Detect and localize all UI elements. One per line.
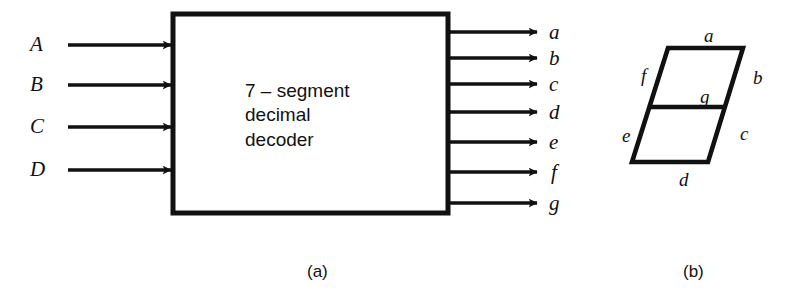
segment-label-a: a	[704, 26, 714, 45]
caption-panel-b: (b)	[683, 263, 704, 280]
output-label-b: b	[549, 48, 560, 69]
segment-label-f: f	[641, 66, 646, 85]
input-arrows	[68, 45, 171, 170]
decoder-block-label: 7 – segment decimal decoder	[245, 79, 350, 152]
output-label-c: c	[549, 74, 558, 95]
output-label-d: d	[549, 102, 560, 123]
output-label-f: f	[551, 162, 557, 183]
seven-segment-display	[632, 48, 743, 162]
segment-label-d: d	[679, 170, 689, 189]
output-label-a: a	[549, 22, 560, 43]
output-label-g: g	[549, 193, 560, 214]
input-label-D: D	[30, 159, 45, 180]
segment-label-b: b	[753, 68, 763, 87]
figure-diagram-svg	[0, 0, 797, 300]
decoder-block-label-line-1: 7 – segment	[245, 79, 350, 103]
decoder-block-label-line-3: decoder	[245, 128, 350, 152]
figure-root: A B C D 7 – segment decimal decoder a b …	[0, 0, 797, 300]
input-label-A: A	[30, 34, 43, 55]
segment-label-g: g	[700, 87, 710, 106]
caption-panel-a: (a)	[307, 263, 328, 280]
input-label-C: C	[30, 116, 44, 137]
segment-label-e: e	[622, 126, 630, 145]
output-arrows	[450, 32, 537, 203]
decoder-block-label-line-2: decimal	[245, 103, 350, 127]
output-label-e: e	[549, 132, 558, 153]
segment-label-c: c	[740, 124, 748, 143]
input-label-B: B	[30, 74, 43, 95]
